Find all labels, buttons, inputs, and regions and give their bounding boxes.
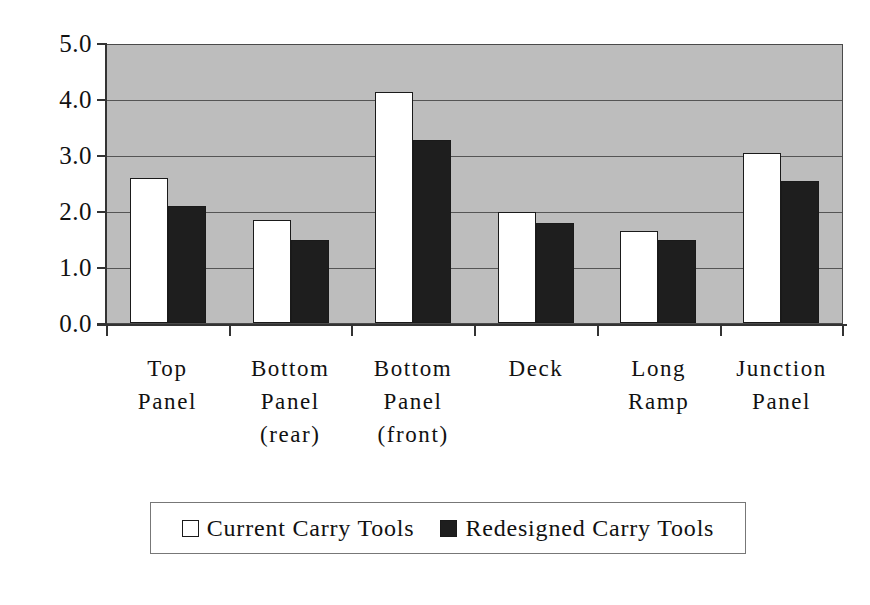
legend-label: Current Carry Tools bbox=[207, 515, 415, 541]
bar-current-carry-tools bbox=[620, 231, 658, 323]
bar-group bbox=[597, 45, 720, 323]
y-axis-tick-label: 2.0 bbox=[28, 199, 92, 224]
bar-chart-figure: 5.0 4.0 3.0 2.0 1.0 0.0 bbox=[0, 0, 870, 605]
x-axis-tick bbox=[842, 325, 844, 336]
black-square-swatch-icon bbox=[440, 520, 457, 537]
bar-redesigned-carry-tools bbox=[781, 181, 819, 323]
chart-legend: Current Carry Tools Redesigned Carry Too… bbox=[150, 502, 746, 554]
white-square-swatch-icon bbox=[182, 520, 199, 537]
y-axis-tick-label: 5.0 bbox=[28, 31, 92, 56]
x-axis-category-label: LongRamp bbox=[597, 352, 720, 451]
y-axis-tick-label: 0.0 bbox=[28, 311, 92, 336]
bar-current-carry-tools bbox=[375, 92, 413, 323]
y-axis-tick-label: 3.0 bbox=[28, 143, 92, 168]
x-axis-category-label: JunctionPanel bbox=[720, 352, 843, 451]
bar-current-carry-tools bbox=[130, 178, 168, 323]
x-axis-tick bbox=[229, 325, 231, 336]
y-axis-line bbox=[105, 43, 107, 326]
bar-current-carry-tools bbox=[743, 153, 781, 323]
plot-area bbox=[106, 44, 843, 324]
bar-current-carry-tools bbox=[253, 220, 291, 323]
x-axis-tick bbox=[351, 325, 353, 336]
x-axis-tick bbox=[597, 325, 599, 336]
x-axis-category-label: BottomPanel(front) bbox=[352, 352, 475, 451]
bar-group bbox=[475, 45, 598, 323]
x-axis-tick bbox=[474, 325, 476, 336]
bar-redesigned-carry-tools bbox=[168, 206, 206, 323]
bar-group bbox=[230, 45, 353, 323]
bar-redesigned-carry-tools bbox=[536, 223, 574, 323]
x-axis-tick bbox=[720, 325, 722, 336]
bar-group bbox=[107, 45, 230, 323]
legend-entry-redesigned-carry-tools: Redesigned Carry Tools bbox=[440, 515, 714, 541]
legend-entry-current-carry-tools: Current Carry Tools bbox=[182, 515, 415, 541]
x-axis-category-label: Deck bbox=[474, 352, 597, 451]
bar-redesigned-carry-tools bbox=[291, 240, 329, 323]
bar-redesigned-carry-tools bbox=[413, 140, 451, 323]
bar-redesigned-carry-tools bbox=[658, 240, 696, 323]
x-axis-labels: TopPanel BottomPanel(rear) BottomPanel(f… bbox=[106, 352, 843, 451]
y-axis-tick-label: 4.0 bbox=[28, 87, 92, 112]
bars-layer bbox=[107, 45, 842, 323]
y-axis-labels: 5.0 4.0 3.0 2.0 1.0 0.0 bbox=[22, 0, 92, 400]
x-axis-tick bbox=[106, 325, 108, 336]
bar-group bbox=[720, 45, 843, 323]
bar-current-carry-tools bbox=[498, 212, 536, 323]
y-axis-tick-label: 1.0 bbox=[28, 255, 92, 280]
x-axis-line bbox=[97, 324, 847, 326]
legend-label: Redesigned Carry Tools bbox=[465, 515, 714, 541]
bar-group bbox=[352, 45, 475, 323]
x-axis-category-label: TopPanel bbox=[106, 352, 229, 451]
x-axis-category-label: BottomPanel(rear) bbox=[229, 352, 352, 451]
